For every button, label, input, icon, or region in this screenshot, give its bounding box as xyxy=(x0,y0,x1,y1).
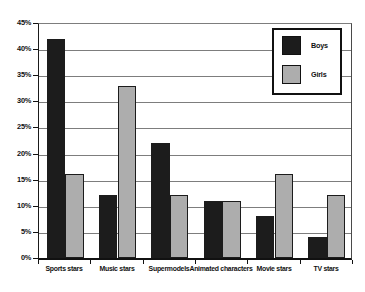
y-axis-tick xyxy=(33,49,38,50)
grouped-bar-chart: 0%5%10%15%20%25%30%35%40%45% Sports star… xyxy=(0,0,365,292)
bar-girls-animated-characters xyxy=(222,201,241,258)
legend-swatch-girls xyxy=(282,65,301,84)
gridline-25 xyxy=(39,128,351,129)
x-axis-tick xyxy=(38,260,39,264)
bar-boys-animated-characters xyxy=(204,201,223,258)
bar-boys-sports-stars xyxy=(47,39,66,258)
y-axis-tick xyxy=(33,154,38,155)
y-axis-tick xyxy=(33,206,38,207)
x-axis-tick xyxy=(247,260,248,264)
bar-boys-supermodels xyxy=(151,143,170,258)
x-axis-tick xyxy=(195,260,196,264)
y-axis-tick-label: 5% xyxy=(2,227,31,237)
x-axis-label-animated-characters: Animated characters xyxy=(190,263,253,274)
y-axis-tick xyxy=(33,127,38,128)
bar-boys-movie-stars xyxy=(256,216,275,258)
x-axis-tick xyxy=(90,260,91,264)
bar-girls-tv-stars xyxy=(327,195,346,258)
y-axis-tick-label: 15% xyxy=(2,175,31,185)
legend-item-girls: Girls xyxy=(282,65,340,84)
bar-girls-music-stars xyxy=(118,86,137,258)
x-axis-label-music-stars: Music stars xyxy=(99,263,134,274)
y-axis-tick xyxy=(33,258,38,259)
y-axis-tick xyxy=(33,180,38,181)
y-axis-tick-label: 0% xyxy=(2,253,31,263)
bar-girls-sports-stars xyxy=(65,174,84,258)
y-axis-tick-label: 45% xyxy=(2,18,31,28)
gridline-15 xyxy=(39,181,351,182)
legend-label-boys: Boys xyxy=(311,41,328,50)
y-axis-tick-label: 25% xyxy=(2,122,31,132)
x-axis-tick xyxy=(352,260,353,264)
y-axis-tick-label: 20% xyxy=(2,149,31,159)
x-axis-label-tv-stars: TV stars xyxy=(313,263,338,274)
gridline-30 xyxy=(39,102,351,103)
x-axis-tick xyxy=(143,260,144,264)
y-axis-tick xyxy=(33,75,38,76)
y-axis-tick xyxy=(33,101,38,102)
bar-boys-music-stars xyxy=(99,195,118,258)
y-axis-tick-label: 40% xyxy=(2,44,31,54)
y-axis-tick xyxy=(33,23,38,24)
bar-boys-tv-stars xyxy=(308,237,327,258)
x-axis-label-supermodels: Supermodels xyxy=(148,263,189,274)
x-axis-tick xyxy=(300,260,301,264)
legend-swatch-boys xyxy=(282,36,301,55)
x-axis-label-sports-stars: Sports stars xyxy=(46,263,83,274)
y-axis-tick xyxy=(33,232,38,233)
legend-label-girls: Girls xyxy=(311,70,327,79)
y-axis-tick-label: 35% xyxy=(2,70,31,80)
gridline-10 xyxy=(39,207,351,208)
bar-girls-supermodels xyxy=(170,195,189,258)
y-axis-tick-label: 30% xyxy=(2,96,31,106)
gridline-5 xyxy=(39,233,351,234)
y-axis-tick-label: 10% xyxy=(2,201,31,211)
gridline-20 xyxy=(39,155,351,156)
legend: BoysGirls xyxy=(272,28,342,95)
bar-girls-movie-stars xyxy=(275,174,294,258)
x-axis-label-movie-stars: Movie stars xyxy=(256,263,291,274)
legend-item-boys: Boys xyxy=(282,36,340,55)
